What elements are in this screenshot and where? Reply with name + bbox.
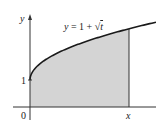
shaded-area (30, 29, 129, 107)
x-tick-label: x (125, 110, 131, 121)
equation-label: y = 1 + √t (63, 21, 103, 32)
y-axis-label: y (19, 13, 25, 24)
y-tick-label: 1 (21, 75, 26, 86)
area-under-curve-diagram: y y = 1 + √t 1 0 x (0, 0, 156, 127)
origin-label: 0 (21, 110, 26, 121)
y-axis-arrow-icon (28, 14, 32, 20)
